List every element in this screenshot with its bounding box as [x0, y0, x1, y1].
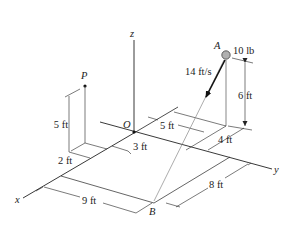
- dim-4ft-label: 4 ft: [218, 134, 232, 145]
- dim-5ft-P-top-ext: [65, 89, 80, 97]
- dim-8ft-line-a: [225, 164, 248, 178]
- dim-9ft-ext1: [36, 187, 43, 191]
- origin-label: O: [123, 119, 131, 130]
- dim-6ft-bottom-ext: [228, 126, 252, 130]
- dim-3ft-line: [112, 146, 128, 151]
- dim-3ft-tick: [128, 151, 131, 154]
- height-P-label: 5 ft: [54, 119, 68, 130]
- weight-label: 10 lb: [233, 45, 254, 56]
- y-axis-label: y: [273, 164, 279, 175]
- dim-9ft-label: 9 ft: [82, 195, 96, 206]
- dim-2ft-label: 2 ft: [58, 155, 72, 166]
- A-base-line-y: [174, 112, 226, 126]
- dim-8ft-label: 8 ft: [209, 179, 223, 190]
- dim-6ft-top-ext: [232, 58, 253, 63]
- kinematics-diagram: z x y O A B P 10 lb 14 ft/s 6 ft 5 ft 2 …: [0, 0, 295, 230]
- dim-5ft-label: 5 ft: [160, 120, 174, 131]
- dim-8ft-ext2: [166, 203, 180, 207]
- dim-5ft-y-line-a: [148, 117, 158, 120]
- dim-9ft-line-b: [103, 203, 136, 213]
- ball-A: [222, 51, 230, 59]
- P-base-line-x: [71, 143, 85, 151]
- dim-8ft-line-b: [176, 188, 208, 207]
- height-A-label: 6 ft: [238, 90, 252, 101]
- x-axis: [23, 133, 134, 198]
- point-P-label: P: [80, 70, 88, 81]
- x-axis-label: x: [14, 194, 20, 205]
- floor-edge-x-side: [61, 176, 154, 203]
- speed-label: 14 ft/s: [185, 66, 212, 77]
- z-axis-label: z: [129, 28, 134, 39]
- dim-9ft-line-a: [44, 187, 80, 197]
- origin-point: [132, 130, 135, 133]
- point-B-label: B: [149, 206, 156, 217]
- dim-3ft-label: 3 ft: [133, 141, 147, 152]
- point-A-label: A: [213, 40, 221, 51]
